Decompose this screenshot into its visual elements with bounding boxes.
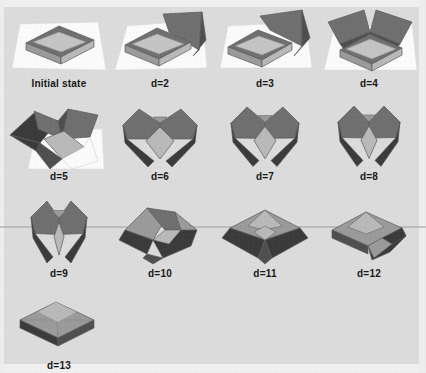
figure-canvas: Initial stated=2d=3d=4d=5d=6d=7d=8d=9d=1…: [0, 0, 426, 373]
panel-d-7: d=7: [212, 99, 318, 192]
panel-label-d-4: d=4: [316, 78, 422, 89]
panel-d-5: d=5: [6, 99, 112, 192]
panel-illustration-d-12: [316, 196, 422, 270]
panel-label-d-8: d=8: [316, 171, 422, 182]
panel-d-9: d=9: [6, 196, 112, 289]
panel-illustration-d-6: [107, 99, 213, 173]
panel-illustration-d-3: [212, 6, 318, 80]
panel-label-d-6: d=6: [107, 171, 213, 182]
panel-label-d-3: d=3: [212, 78, 318, 89]
panel-illustration-d-8: [316, 99, 422, 173]
panel-illustration-d-4: [316, 6, 422, 80]
panel-illustration-d-13: [6, 288, 112, 362]
panel-label-d-13: d=13: [6, 360, 112, 371]
panel-d-10: d=10: [107, 196, 213, 289]
panel-illustration-d-11: [212, 196, 318, 270]
panel-illustration-d-10: [107, 196, 213, 270]
panel-label-d-10: d=10: [107, 268, 213, 279]
panel-d-4: d=4: [316, 6, 422, 99]
panel-d-2: d=2: [107, 6, 213, 99]
panel-illustration-d-5: [6, 99, 112, 173]
panel-illustration-initial-state: [6, 6, 112, 80]
panel-label-initial-state: Initial state: [6, 78, 112, 89]
panel-illustration-d-7: [212, 99, 318, 173]
panel-d-11: d=11: [212, 196, 318, 289]
panel-d-3: d=3: [212, 6, 318, 99]
panel-initial-state: Initial state: [6, 6, 112, 99]
panel-d-8: d=8: [316, 99, 422, 192]
panel-illustration-d-2: [107, 6, 213, 80]
panel-d-6: d=6: [107, 99, 213, 192]
panel-label-d-7: d=7: [212, 171, 318, 182]
panel-label-d-11: d=11: [212, 268, 318, 279]
panel-label-d-5: d=5: [6, 171, 112, 182]
panel-label-d-9: d=9: [6, 268, 112, 279]
panel-label-d-12: d=12: [316, 268, 422, 279]
panel-grid: Initial stated=2d=3d=4d=5d=6d=7d=8d=9d=1…: [0, 0, 426, 373]
panel-d-12: d=12: [316, 196, 422, 289]
panel-d-13: d=13: [6, 288, 112, 373]
panel-illustration-d-9: [6, 196, 112, 270]
panel-label-d-2: d=2: [107, 78, 213, 89]
